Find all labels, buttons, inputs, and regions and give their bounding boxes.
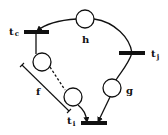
label-tc: tc bbox=[9, 26, 19, 38]
place-h bbox=[76, 10, 94, 28]
transition-ti bbox=[81, 121, 107, 125]
arc-f-end-to-ti bbox=[78, 105, 87, 122]
label-h: h bbox=[82, 34, 90, 45]
arc-tj-to-g bbox=[116, 53, 132, 80]
arc-f-dashed bbox=[50, 67, 65, 90]
label-ti-main: t bbox=[67, 115, 72, 126]
label-tj: tj bbox=[151, 48, 159, 61]
label-tc-main: t bbox=[9, 26, 14, 37]
place-g bbox=[103, 79, 121, 97]
label-g: g bbox=[126, 85, 133, 96]
petri-net-diagram: h g f tc tj ti bbox=[0, 0, 168, 135]
place-f-start bbox=[33, 53, 51, 71]
arc-g-to-ti bbox=[98, 97, 110, 122]
label-tj-sub: j bbox=[156, 52, 160, 61]
place-f-end bbox=[64, 88, 82, 106]
label-tc-sub: c bbox=[15, 29, 19, 38]
label-tj-main: t bbox=[151, 48, 156, 59]
transition-tj bbox=[119, 51, 145, 55]
f-bracket-line bbox=[22, 65, 69, 111]
label-ti-sub: i bbox=[73, 119, 76, 128]
arc-h-to-tc bbox=[37, 19, 77, 31]
label-f: f bbox=[36, 86, 41, 97]
arc-h-to-tj bbox=[94, 19, 132, 53]
label-ti: ti bbox=[67, 115, 76, 128]
transition-tc bbox=[24, 30, 49, 34]
